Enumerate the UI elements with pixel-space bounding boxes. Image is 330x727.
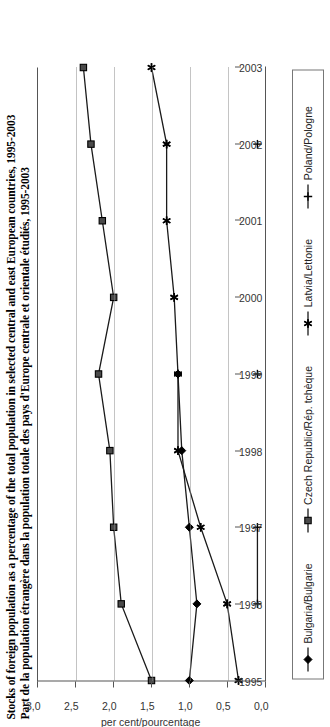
chart-title: Stocks of foreign population as a percen…	[4, 0, 32, 721]
x-axis-tick-label: 2003	[239, 61, 262, 73]
gridline	[190, 67, 191, 680]
x-axis-tick-label: 1995	[239, 675, 262, 687]
chart-legend: Bulgaria/BulgarieCzech Republic/Rép. tch…	[292, 69, 324, 679]
diamond-marker	[302, 646, 314, 672]
legend-item-label: Czech Republic/Rép. tchèque	[302, 365, 314, 504]
legend-item-label: Poland/Pologne	[302, 106, 314, 180]
legend-item-label: Bulgaria/Bulgarie	[302, 563, 314, 643]
chart-title-english: Stocks of foreign population as a percen…	[4, 0, 18, 719]
y-axis-tick	[113, 681, 114, 687]
y-axis-tick	[227, 681, 228, 687]
y-axis-title: per cent/pourcentage	[101, 715, 200, 727]
plus-marker	[302, 183, 314, 209]
y-axis-tick-label: 0,0	[254, 699, 269, 711]
plot-area	[37, 67, 265, 681]
series-square	[80, 64, 154, 683]
y-axis-tick-label: 0,5	[216, 699, 231, 711]
legend-item-label: Latvia/Lettonie	[302, 238, 314, 306]
x-axis-tick-label: 1997	[239, 522, 262, 534]
y-axis-tick-label: 3,0	[26, 699, 41, 711]
y-axis-tick	[37, 681, 38, 687]
x-axis-tick-label: 2002	[239, 138, 262, 150]
x-axis-tick-label: 1999	[239, 368, 262, 380]
legend-item-2[interactable]: Latvia/Lettonie	[302, 213, 314, 336]
gridline	[152, 67, 153, 680]
y-axis-tick	[189, 681, 190, 687]
asterisk-marker	[302, 310, 314, 336]
plot-area-wrapper: per cent/pourcentage 0,00,51,01,52,02,53…	[33, 0, 283, 721]
x-axis-tick-label: 2001	[239, 215, 262, 227]
y-axis-tick	[75, 681, 76, 687]
y-axis-tick	[151, 681, 152, 687]
gridline	[114, 67, 115, 680]
y-axis-tick-label: 1,5	[140, 699, 155, 711]
x-axis-tick-label: 1996	[239, 598, 262, 610]
square-marker	[302, 507, 314, 533]
y-axis-tick-label: 2,0	[102, 699, 117, 711]
x-axis-tick-label: 1998	[239, 445, 262, 457]
gridline	[228, 67, 229, 680]
x-axis-tick-label: 2000	[239, 291, 262, 303]
gridline	[76, 67, 77, 680]
y-axis-tick-label: 2,5	[64, 699, 79, 711]
legend-item-3[interactable]: Poland/Pologne	[302, 80, 314, 209]
value-axis-baseline	[265, 66, 266, 681]
y-axis-tick-label: 1,0	[178, 699, 193, 711]
legend-item-1[interactable]: Czech Republic/Rép. tchèque	[302, 340, 314, 534]
legend-item-0[interactable]: Bulgaria/Bulgarie	[302, 537, 314, 672]
chart-title-french: Part de la population étrangère dans la …	[18, 0, 32, 719]
y-axis-tick	[265, 681, 266, 687]
